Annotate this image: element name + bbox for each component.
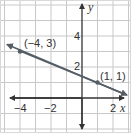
tick-label-2y: 2 [74,60,80,72]
tick-label-neg2: −2 [44,102,57,114]
tick-label-4y: 4 [74,30,80,42]
x-axis-label: x [119,101,126,115]
tick-label-neg4: −4 [14,102,27,114]
point-label-b: (1, 1) [100,70,126,82]
tick-label-2x: 2 [110,102,116,114]
coordinate-graph: (−4, 3) (1, 1) −4 −2 2 x 4 2 y [0,0,131,133]
y-axis-label: y [87,0,94,14]
point-label-a: (−4, 3) [24,37,56,49]
point-neg4-3 [18,49,23,54]
